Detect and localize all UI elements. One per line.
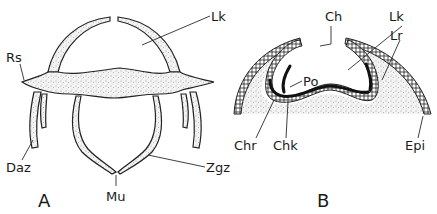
right-inner-arm: [181, 94, 188, 128]
label-lk-b: Lk: [389, 9, 404, 24]
panel-label-a: A: [38, 190, 51, 211]
right-outer-arm: [190, 92, 201, 148]
label-chr: Chr: [234, 138, 257, 153]
label-ch: Ch: [325, 9, 342, 24]
panel-b-drawing: [234, 38, 431, 114]
label-epi: Epi: [405, 138, 425, 153]
sac-left: [73, 96, 116, 174]
label-chk: Chk: [273, 138, 298, 153]
left-inner-arm: [41, 94, 48, 128]
left-outer-arm: [30, 92, 41, 148]
label-lr: Lr: [390, 28, 403, 43]
figure-canvas: Lk Rs Daz Zgz Mu A Ch Lk Lr Po Chr: [0, 0, 437, 214]
label-daz: Daz: [6, 160, 31, 175]
label-po: Po: [303, 74, 318, 89]
panel-label-b: B: [317, 190, 329, 211]
sac-right: [118, 96, 161, 174]
label-mu: Mu: [106, 189, 125, 204]
label-zgz: Zgz: [206, 160, 230, 175]
arch-right: [118, 17, 180, 72]
panel-a-drawing: [22, 17, 214, 174]
label-lk-a: Lk: [211, 9, 226, 24]
mesoderm-dome: [236, 40, 429, 114]
arch-left: [48, 17, 110, 72]
label-rs: Rs: [6, 50, 22, 65]
chordal-line-left: [283, 66, 290, 92]
